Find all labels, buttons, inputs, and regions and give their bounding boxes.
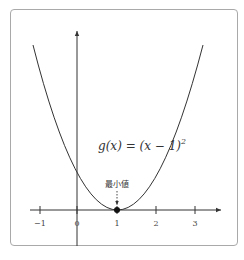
vertex-point: [114, 207, 120, 213]
tick-label: 0: [74, 219, 79, 228]
function-label: g(x) = (x − 1)2: [98, 137, 186, 153]
tick-label: 2: [153, 219, 158, 228]
tick-label: −1: [34, 219, 46, 228]
parabola-plot: −1 0 1 2 3 g(x) = (x − 1)2 最小値: [0, 0, 244, 260]
tick-label: 3: [192, 219, 197, 228]
tick-label: 1: [114, 219, 119, 228]
minimum-label: 最小値: [105, 179, 129, 189]
